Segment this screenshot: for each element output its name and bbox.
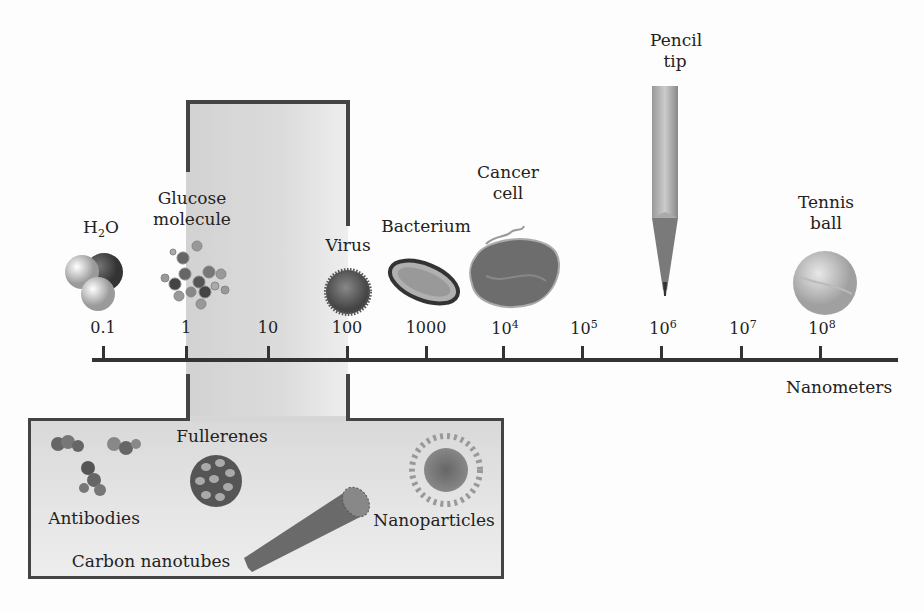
tick-mark [660,346,663,359]
pencil-tip-icon [650,86,680,306]
tennis-ball-label: Tennisball [796,192,856,234]
tick-label-1e4: 104 [475,318,535,338]
carbon-nanotubes-label: Carbon nanotubes [66,551,236,572]
glucose-molecule-icon [155,238,245,318]
tick-mark [346,346,349,359]
tick-mark [267,346,270,359]
tick-mark [102,346,105,359]
tick-mark [819,346,822,359]
tick-label-1: 1 [156,318,216,337]
antibodies-icon [48,432,148,502]
tick-label-1e5: 105 [554,318,614,338]
virus-icon [318,262,378,322]
water-molecule-icon [60,250,130,320]
pencil-tip-label: Penciltip [650,30,700,72]
fullerene-icon [186,451,246,511]
tick-label-10: 10 [238,318,298,337]
tick-label-1000: 1000 [396,318,456,337]
glucose-label: Glucosemolecule [148,188,236,230]
tick-mark [740,346,743,359]
cancer-cell-label: Cancercell [476,162,540,204]
bacterium-icon [384,252,464,312]
cancer-cell-icon [466,226,566,311]
tick-mark [425,346,428,359]
nanoparticles-label: Nanoparticles [370,510,498,531]
bacterium-label: Bacterium [378,216,474,237]
tick-mark [581,346,584,359]
axis-unit-label: Nanometers [786,377,892,398]
water-label: H2O [76,217,126,244]
scale-axis [92,358,898,362]
fullerenes-label: Fullerenes [174,426,270,447]
tick-label-1e6: 106 [633,318,693,338]
tennis-ball-icon [790,248,860,318]
tick-mark [185,346,188,359]
tick-label-1e7: 107 [713,318,773,338]
carbon-nanotube-icon [244,484,374,574]
tick-label-0.1: 0.1 [73,318,133,337]
virus-label: Virus [320,235,376,256]
tick-mark [502,346,505,359]
nanomaterials-box-gap [190,416,346,422]
tick-label-1e8: 108 [792,318,852,338]
nanoparticle-icon [406,430,486,510]
antibodies-label: Antibodies [44,508,144,529]
